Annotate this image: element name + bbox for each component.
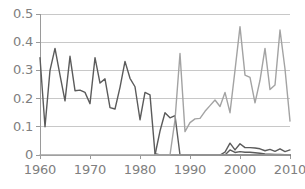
y-tick-label: 0.5	[3, 7, 33, 20]
x-tick-label: 1970	[67, 163, 113, 176]
x-tick-label: 1990	[167, 163, 213, 176]
y-tick-label: 0	[3, 148, 33, 161]
data-line-series-light-main	[155, 27, 290, 155]
chart-container: 00.10.20.30.40.5 19601970198019902000201…	[0, 0, 305, 189]
data-line-series-dark-early	[40, 48, 290, 155]
x-tick-label: 1960	[17, 163, 63, 176]
data-line-series-dark-lower-recent	[220, 150, 290, 155]
x-tick-label: 1980	[117, 163, 163, 176]
y-tick-label: 0.2	[3, 92, 33, 105]
chart-plot-area	[0, 0, 305, 189]
y-tick-label: 0.4	[3, 35, 33, 48]
x-tick-label: 2010	[267, 163, 305, 176]
y-tick-label: 0.1	[3, 120, 33, 133]
gridlines	[40, 14, 290, 127]
y-tick-label: 0.3	[3, 63, 33, 76]
x-tick-label: 2000	[217, 163, 263, 176]
data-series-group	[40, 27, 290, 155]
